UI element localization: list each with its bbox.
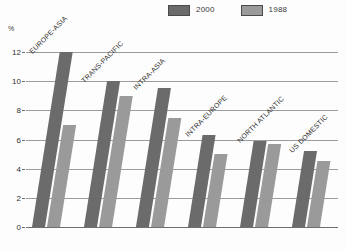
bar-2000: [32, 52, 45, 227]
bar-group: [136, 52, 164, 227]
y-axis-tick-label: 10: [12, 77, 21, 86]
bar-fill: [47, 125, 76, 227]
legend-label: 1988: [269, 6, 288, 14]
bar-fill: [151, 118, 181, 227]
bar-2000: [188, 135, 201, 227]
bar-1988: [307, 161, 320, 227]
bar-group: [188, 52, 216, 227]
y-axis-unit-label: %: [8, 25, 14, 32]
y-axis-tick-label: 6: [17, 135, 21, 144]
bar-fill: [307, 161, 330, 227]
bar-group: [240, 52, 268, 227]
bar-2000: [136, 88, 149, 227]
bar-1988: [255, 144, 268, 227]
category-label: EUROPE-ASIA: [28, 15, 68, 55]
y-axis-tick-mark: [22, 227, 25, 228]
y-axis-tick-mark: [22, 81, 25, 82]
plot-area: 121086420EUROPE-ASIATRANS-PACIFICINTRA-A…: [26, 52, 338, 227]
bar-group: [84, 52, 112, 227]
y-axis-tick-label: 2: [17, 193, 21, 202]
bar-1988: [99, 96, 112, 227]
y-axis-tick-label: 4: [17, 164, 21, 173]
y-axis-tick-label: 8: [17, 106, 21, 115]
y-axis-tick-mark: [22, 198, 25, 199]
bar-2000: [240, 141, 253, 227]
legend-label: 2000: [196, 6, 215, 14]
bar-1988: [47, 125, 60, 227]
bar-fill: [203, 154, 228, 227]
bar-1988: [151, 118, 164, 227]
gridline-0: 0: [26, 227, 338, 228]
bar-chart: 20001988 % 121086420EUROPE-ASIATRANS-PAC…: [0, 0, 346, 251]
bar-1988: [203, 154, 216, 227]
bar-fill: [255, 144, 281, 227]
bar-2000: [84, 81, 97, 227]
y-axis-tick-mark: [22, 110, 25, 111]
legend-swatch-icon: [168, 5, 190, 16]
bar-group: [32, 52, 60, 227]
y-axis-tick-label: 0: [17, 223, 21, 232]
legend-swatch-icon: [241, 5, 263, 16]
bar-fill: [99, 96, 133, 227]
y-axis-tick-label: 12: [12, 48, 21, 57]
bar-2000: [292, 151, 305, 227]
chart-legend: 20001988: [168, 3, 287, 17]
y-axis-tick-mark: [22, 169, 25, 170]
bar-group: [292, 52, 320, 227]
legend-item-2000: 2000: [168, 5, 215, 16]
y-axis-tick-mark: [22, 52, 25, 53]
y-axis-tick-mark: [22, 140, 25, 141]
legend-item-1988: 1988: [241, 5, 288, 16]
